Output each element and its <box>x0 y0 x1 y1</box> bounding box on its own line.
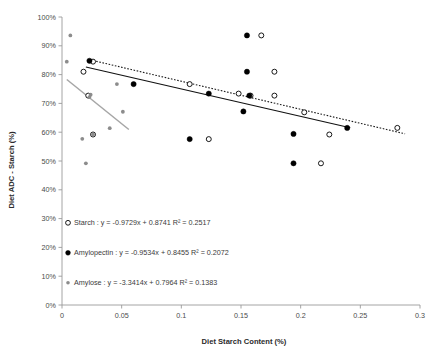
data-point-starch <box>318 161 323 166</box>
data-point-amylose <box>121 110 125 114</box>
data-point-amylose <box>65 60 69 64</box>
legend-label-amylopectin: Amylopectin : y = -0.9534x + 0.8455 R² =… <box>74 248 229 257</box>
x-tick-label: 0.25 <box>353 311 367 320</box>
legend-marker-amylopectin-icon <box>66 250 71 255</box>
chart-canvas: 0%10%20%30%40%50%60%70%80%90%100% 00.050… <box>0 0 437 354</box>
data-point-amylose <box>89 93 93 97</box>
data-point-amylopectin <box>244 69 249 74</box>
data-point-amylopectin <box>241 109 246 114</box>
data-point-amylopectin <box>291 131 296 136</box>
data-point-starch <box>81 69 86 74</box>
data-point-starch <box>236 91 241 96</box>
legend-label-amylose: Amylose : y = -3.3414x + 0.7964 R² = 0.1… <box>74 278 217 287</box>
data-point-starch <box>395 125 400 130</box>
chart-background <box>0 0 437 354</box>
data-point-amylose <box>91 133 95 137</box>
y-tick-label: 70% <box>42 99 57 108</box>
y-tick-label: 60% <box>42 128 57 137</box>
legend-marker-amylose-icon <box>66 281 70 285</box>
data-point-starch <box>272 93 277 98</box>
x-tick-label: 0.3 <box>415 311 425 320</box>
data-point-amylopectin <box>87 58 92 63</box>
legend-label-starch: Starch : y = -0.9729x + 0.8741 R² = 0.25… <box>74 218 210 227</box>
y-tick-label: 50% <box>42 157 57 166</box>
data-point-amylose <box>80 137 84 141</box>
y-axis-title: Diet ADC - Starch (%) <box>7 131 16 208</box>
x-tick-label: 0.05 <box>115 311 129 320</box>
y-tick-label: 40% <box>42 185 57 194</box>
x-tick-label: 0 <box>60 311 64 320</box>
y-tick-label: 90% <box>42 41 57 50</box>
y-tick-label: 100% <box>38 13 57 22</box>
y-tick-label: 30% <box>42 214 57 223</box>
data-point-amylopectin <box>345 125 350 130</box>
data-point-amylopectin <box>291 161 296 166</box>
y-tick-label: 0% <box>46 301 57 310</box>
data-point-amylopectin <box>247 93 252 98</box>
y-tick-label: 80% <box>42 70 57 79</box>
x-tick-label: 0.15 <box>234 311 248 320</box>
legend-marker-starch-icon <box>66 220 71 225</box>
x-axis-title: Diet Starch Content (%) <box>202 337 287 346</box>
data-point-starch <box>302 110 307 115</box>
data-point-amylopectin <box>206 91 211 96</box>
data-point-starch <box>327 132 332 137</box>
y-tick-label: 20% <box>42 243 57 252</box>
data-point-starch <box>259 33 264 38</box>
data-point-amylopectin <box>131 82 136 87</box>
data-point-starch <box>206 137 211 142</box>
scatter-chart: 0%10%20%30%40%50%60%70%80%90%100% 00.050… <box>0 0 437 354</box>
x-tick-label: 0.1 <box>176 311 186 320</box>
y-tick-label: 10% <box>42 272 57 281</box>
data-point-amylopectin <box>187 137 192 142</box>
data-point-amylose <box>115 82 119 86</box>
x-tick-label: 0.2 <box>296 311 306 320</box>
data-point-starch <box>272 69 277 74</box>
data-point-amylose <box>84 161 88 165</box>
data-point-amylose <box>68 34 72 38</box>
data-point-amylose <box>108 126 112 130</box>
data-point-amylopectin <box>244 33 249 38</box>
data-point-starch <box>187 82 192 87</box>
